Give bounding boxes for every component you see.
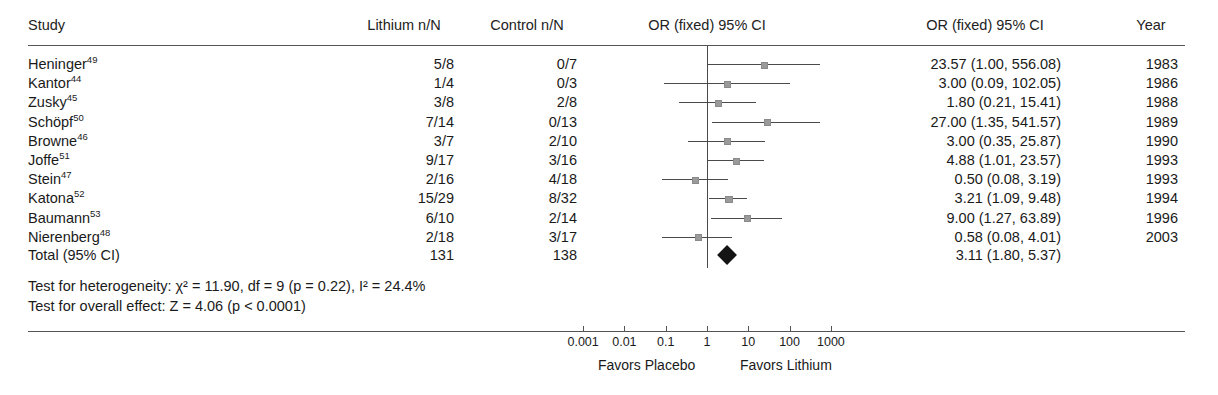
control-count: 4/18 <box>477 171 577 187</box>
study-name-text: Katona <box>28 190 74 206</box>
treatment-count: 5/8 <box>354 56 454 72</box>
study-name-text: Stein <box>28 171 61 187</box>
point-estimate-marker <box>733 158 740 165</box>
heterogeneity-stat-text: Test for heterogeneity: χ² = 11.90, df =… <box>28 278 425 294</box>
column-header-estimate: OR (fixed) 95% CI <box>926 17 1044 33</box>
effect-estimate: 0.50 (0.08, 3.19) <box>885 171 1061 187</box>
treatment-count: 2/18 <box>354 229 454 245</box>
axis-tick-label: 1 <box>704 335 711 349</box>
plot-area <box>540 46 870 331</box>
overall-effect-stat: Test for overall effect: Z = 4.06 (p < 0… <box>28 298 306 314</box>
publication-year: 1986 <box>1110 75 1178 91</box>
study-name-text: Kantor <box>28 75 71 91</box>
axis-tick-label: 100 <box>779 335 800 349</box>
study-reference-superscript: 51 <box>59 150 70 161</box>
footer-divider-rule <box>28 331 1185 332</box>
study-name-text: Schöpf <box>28 114 73 130</box>
total-label: Total (95% CI) <box>28 247 120 263</box>
treatment-count: 1/4 <box>354 75 454 91</box>
publication-year: 1989 <box>1110 114 1178 130</box>
axis-tick <box>748 326 749 331</box>
axis-tick <box>666 326 667 331</box>
effect-estimate: 1.80 (0.21, 15.41) <box>885 94 1061 110</box>
study-name: Zusky45 <box>28 94 77 110</box>
study-reference-superscript: 44 <box>71 73 82 84</box>
axis-tick-label: 0.1 <box>657 335 674 349</box>
axis-tick <box>707 326 708 331</box>
publication-year: 1990 <box>1110 133 1178 149</box>
study-reference-superscript: 45 <box>67 93 78 104</box>
point-estimate-marker <box>761 62 768 69</box>
point-estimate-marker <box>692 177 699 184</box>
control-count: 0/3 <box>477 75 577 91</box>
column-header-year: Year <box>1136 17 1165 33</box>
study-name: Joffe51 <box>28 152 70 168</box>
control-count: 0/13 <box>477 114 577 130</box>
effect-estimate: 3.00 (0.35, 25.87) <box>885 133 1061 149</box>
column-header-treatment: Lithium n/N <box>367 17 440 33</box>
point-estimate-marker <box>764 119 771 126</box>
null-effect-line <box>707 46 708 268</box>
study-reference-superscript: 53 <box>90 208 101 219</box>
axis-label-left: Favors Placebo <box>598 357 695 373</box>
point-estimate-marker <box>724 81 731 88</box>
control-count: 8/32 <box>477 190 577 206</box>
treatment-count: 15/29 <box>354 190 454 206</box>
treatment-count: 3/7 <box>354 133 454 149</box>
treatment-count: 2/16 <box>354 171 454 187</box>
effect-estimate: 3.21 (1.09, 9.48) <box>885 190 1061 206</box>
control-count: 2/10 <box>477 133 577 149</box>
summary-effect-diamond <box>717 245 737 265</box>
control-count: 2/14 <box>477 210 577 226</box>
overall-effect-stat-text: Test for overall effect: Z = 4.06 (p < 0… <box>28 298 306 314</box>
axis-tick-label: 1000 <box>817 335 845 349</box>
publication-year: 1983 <box>1110 56 1178 72</box>
effect-estimate: 4.88 (1.01, 23.57) <box>885 152 1061 168</box>
total-control: 138 <box>477 247 577 263</box>
axis-tick-label: 0.01 <box>612 335 636 349</box>
study-name-text: Heninger <box>28 56 87 72</box>
total-estimate: 3.11 (1.80, 5.37) <box>885 247 1061 263</box>
study-reference-superscript: 52 <box>74 189 85 200</box>
study-name: Nierenberg48 <box>28 229 110 245</box>
treatment-count: 7/14 <box>354 114 454 130</box>
study-name: Stein47 <box>28 171 72 187</box>
treatment-count: 6/10 <box>354 210 454 226</box>
control-count: 3/16 <box>477 152 577 168</box>
study-name: Katona52 <box>28 190 85 206</box>
study-name-text: Nierenberg <box>28 229 100 245</box>
study-name-text: Baumann <box>28 210 90 226</box>
effect-estimate: 3.00 (0.09, 102.05) <box>885 75 1061 91</box>
publication-year: 2003 <box>1110 229 1178 245</box>
study-name: Baumann53 <box>28 210 101 226</box>
study-name: Schöpf50 <box>28 114 84 130</box>
treatment-count: 3/8 <box>354 94 454 110</box>
axis-tick <box>583 326 584 331</box>
study-reference-superscript: 50 <box>73 112 84 123</box>
effect-estimate: 0.58 (0.08, 4.01) <box>885 229 1061 245</box>
effect-estimate: 27.00 (1.35, 541.57) <box>885 114 1061 130</box>
axis-tick <box>790 326 791 331</box>
study-reference-superscript: 48 <box>100 227 111 238</box>
forest-plot-figure: Study Lithium n/N Control n/N OR (fixed)… <box>0 0 1218 395</box>
study-name: Browne46 <box>28 133 88 149</box>
point-estimate-marker <box>744 215 751 222</box>
point-estimate-marker <box>715 100 722 107</box>
axis-tick-label: 10 <box>741 335 755 349</box>
effect-estimate: 9.00 (1.27, 63.89) <box>885 210 1061 226</box>
point-estimate-marker <box>725 196 732 203</box>
control-count: 0/7 <box>477 56 577 72</box>
column-header-control: Control n/N <box>490 17 563 33</box>
publication-year: 1996 <box>1110 210 1178 226</box>
effect-estimate: 23.57 (1.00, 556.08) <box>885 56 1061 72</box>
axis-tick <box>624 326 625 331</box>
point-estimate-marker <box>724 138 731 145</box>
control-count: 2/8 <box>477 94 577 110</box>
axis-label-right: Favors Lithium <box>740 357 832 373</box>
study-name-text: Joffe <box>28 152 59 168</box>
publication-year: 1993 <box>1110 152 1178 168</box>
treatment-count: 9/17 <box>354 152 454 168</box>
heterogeneity-stat: Test for heterogeneity: χ² = 11.90, df =… <box>28 278 425 294</box>
study-name-text: Zusky <box>28 94 67 110</box>
study-reference-superscript: 49 <box>87 54 98 65</box>
